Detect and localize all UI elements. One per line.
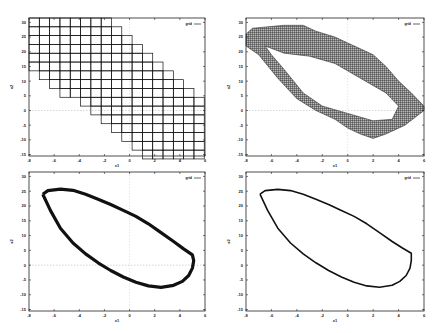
x-tick-label: -4	[295, 158, 299, 163]
grid-cell	[70, 36, 80, 45]
x-tick-label: -2	[103, 158, 107, 163]
grid-cell	[122, 97, 132, 106]
grid-cell	[50, 80, 60, 89]
grid-cell	[39, 44, 49, 53]
y-tick-label: -10	[237, 137, 244, 142]
grid-cell	[39, 53, 49, 62]
grid-cell	[153, 97, 163, 106]
grid-cell	[142, 115, 152, 124]
y-tick-label: 30	[239, 174, 244, 179]
y-tick-label: 30	[22, 20, 27, 25]
y-tick-label: 15	[22, 218, 27, 223]
x-axis-label: x1	[333, 163, 338, 168]
y-tick-label: 20	[239, 49, 244, 54]
grid-cell	[50, 36, 60, 45]
grid-cell	[132, 133, 142, 142]
grid-cell	[91, 88, 101, 97]
grid-cell	[122, 124, 132, 133]
x-tick-label: 2	[372, 158, 375, 163]
grid-cell	[91, 36, 101, 45]
x-tick-label: -4	[78, 313, 82, 318]
y-tick-label: -10	[237, 292, 244, 297]
y-tick-label: 20	[22, 203, 27, 208]
grid-cell	[173, 141, 183, 150]
grid-cell	[60, 36, 70, 45]
grid-cell	[163, 88, 173, 97]
y-axis-label: x2	[226, 239, 231, 244]
grid-cell	[153, 71, 163, 80]
grid-cell	[184, 88, 194, 97]
grid-cell	[122, 71, 132, 80]
grid-cell	[101, 27, 111, 36]
grid-cell	[132, 71, 142, 80]
grid-cell	[101, 97, 111, 106]
grid-cell	[153, 80, 163, 89]
grid-cell	[142, 71, 152, 80]
y-axis-label: x2	[9, 239, 14, 244]
grid-cell	[39, 36, 49, 45]
grid-cell	[50, 27, 60, 36]
y-tick-label: 20	[22, 49, 27, 54]
y-tick-label: 5	[24, 93, 27, 98]
grid-cell	[173, 133, 183, 142]
grid-cell	[70, 27, 80, 36]
x-tick-label: -6	[270, 313, 274, 318]
grid-cell	[101, 53, 111, 62]
y-tick-label: 10	[239, 233, 244, 238]
x-tick-label: 6	[423, 158, 426, 163]
grid-cell	[60, 88, 70, 97]
grid-cell	[153, 141, 163, 150]
y-tick-label: 25	[22, 34, 27, 39]
grid-cell	[184, 97, 194, 106]
legend-label: grid	[185, 22, 192, 26]
grid-cell	[101, 36, 111, 45]
grid-cell	[184, 150, 194, 159]
y-tick-label: 5	[241, 93, 244, 98]
y-tick-label: 30	[22, 174, 27, 179]
y-tick-label: -5	[239, 123, 243, 128]
grid-cell	[101, 106, 111, 115]
grid-cell	[163, 124, 173, 133]
x-tick-label: -8	[27, 158, 31, 163]
panel-bottom-right: -8-6-4-20246302520151050-5-10-15x1x2grid	[226, 172, 426, 323]
grid-cell	[50, 53, 60, 62]
grid-cell	[132, 97, 142, 106]
grid-cell	[91, 71, 101, 80]
grid-cell	[101, 71, 111, 80]
grid-cell	[60, 18, 70, 27]
limit-cycle-line	[43, 189, 194, 287]
y-tick-label: 10	[22, 79, 27, 84]
grid-cell	[60, 80, 70, 89]
grid-cell	[111, 97, 121, 106]
grid-cell	[81, 97, 91, 106]
grid-cell	[132, 62, 142, 71]
x-tick-label: 0	[347, 158, 350, 163]
grid-cell	[111, 27, 121, 36]
grid-cell	[81, 27, 91, 36]
legend: grid	[185, 176, 201, 180]
grid-cell	[111, 53, 121, 62]
y-tick-label: -5	[22, 277, 26, 282]
grid-cell	[91, 44, 101, 53]
y-tick-label: 15	[22, 64, 27, 69]
grid-cell	[111, 88, 121, 97]
grid-cell	[60, 53, 70, 62]
grid-cell	[81, 80, 91, 89]
grid-cell	[122, 36, 132, 45]
grid-cell	[194, 150, 204, 159]
x-tick-label: -4	[78, 158, 82, 163]
y-tick-label: 0	[24, 108, 27, 113]
y-tick-label: 0	[241, 108, 244, 113]
y-tick-label: -15	[237, 307, 244, 312]
grid-cell	[81, 62, 91, 71]
grid-cell	[153, 133, 163, 142]
grid-cell	[122, 44, 132, 53]
grid-cell	[194, 115, 204, 124]
y-tick-label: 5	[24, 248, 27, 253]
y-tick-label: 20	[239, 203, 244, 208]
y-tick-label: 10	[239, 79, 244, 84]
x-tick-label: 4	[397, 313, 400, 318]
grid-cell	[173, 97, 183, 106]
grid-cell	[70, 71, 80, 80]
grid-cell	[163, 71, 173, 80]
